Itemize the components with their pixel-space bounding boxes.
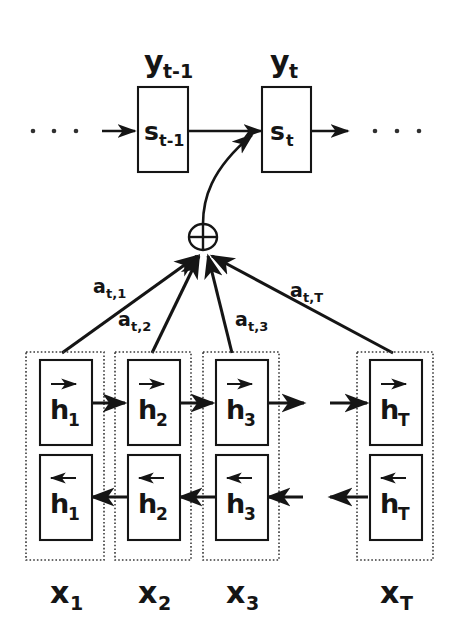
encoder-input-label-2: x 2 (138, 575, 171, 614)
xT-base: x (380, 575, 399, 610)
h1-forward-sub: 1 (68, 410, 80, 430)
context-to-state-curve (203, 135, 252, 224)
y-prev-base: y (144, 44, 164, 79)
s-cur-sub: t (286, 131, 294, 150)
encoder-cell-forward-2: h 2 (128, 360, 180, 445)
x3-base: x (226, 575, 245, 610)
encoder-cell-forward-1: h 1 (40, 360, 92, 445)
hT-backward-sub: T (398, 504, 410, 524)
hT-forward-sub: T (398, 410, 410, 430)
h2-backward-sub: 2 (156, 504, 168, 524)
h3-forward-sub: 3 (244, 410, 256, 430)
x3-sub: 3 (246, 592, 259, 614)
hT-forward-base: h (380, 394, 399, 425)
h2-backward-base: h (138, 488, 157, 519)
s-cur-base: s (270, 117, 285, 146)
encoder-cell-backward-1: h 1 (40, 455, 92, 540)
diagram-canvas: y t-1 s t-1 y t s t a (0, 0, 455, 631)
output-label-y-prev: y t-1 (144, 44, 193, 82)
attention-lines (62, 256, 393, 353)
y-cur-base: y (270, 44, 290, 79)
a1-base: a (93, 275, 106, 297)
hT-backward-base: h (380, 488, 399, 519)
encoder-cell-backward-3: h 3 (216, 455, 268, 540)
h1-forward-base: h (50, 394, 69, 425)
attention-architecture-diagram: y t-1 s t-1 y t s t a (0, 0, 455, 631)
x2-base: x (138, 575, 157, 610)
aT-sub: t,T (303, 290, 323, 305)
a3-sub: t,3 (248, 319, 268, 334)
a2-base: a (118, 308, 131, 330)
encoder-input-label-T: x T (380, 575, 413, 614)
encoder-input-label-3: x 3 (226, 575, 259, 614)
h2-forward-base: h (138, 394, 157, 425)
left-ellipsis (31, 129, 79, 134)
attention-weight-label-2: a t,2 (118, 308, 151, 334)
sum-node (189, 224, 217, 250)
output-label-y-cur: y t (270, 44, 298, 82)
x1-base: x (50, 575, 69, 610)
y-cur-sub: t (289, 60, 298, 82)
y-prev-sub: t-1 (163, 60, 193, 82)
attention-weight-label-3: a t,3 (235, 308, 268, 334)
right-ellipsis (373, 129, 422, 134)
encoder-cell-forward-T: h T (370, 360, 422, 445)
h3-backward-sub: 3 (244, 504, 256, 524)
h1-backward-sub: 1 (68, 504, 80, 524)
xT-sub: T (400, 592, 413, 614)
h2-forward-sub: 2 (156, 410, 168, 430)
aT-base: a (290, 279, 303, 301)
attention-weight-label-1: a t,1 (93, 275, 126, 301)
encoder-input-label-1: x 1 (50, 575, 83, 614)
x1-sub: 1 (70, 592, 83, 614)
h3-backward-base: h (226, 488, 245, 519)
encoder-cell-backward-T: h T (370, 455, 422, 540)
h1-backward-base: h (50, 488, 69, 519)
attention-line-3 (208, 256, 232, 353)
s-prev-sub: t-1 (159, 131, 184, 150)
a1-sub: t,1 (106, 286, 126, 301)
encoder-cell-forward-3: h 3 (216, 360, 268, 445)
s-prev-base: s (144, 117, 159, 146)
a2-sub: t,2 (131, 319, 151, 334)
encoder-cell-backward-2: h 2 (128, 455, 180, 540)
a3-base: a (235, 308, 248, 330)
x2-sub: 2 (158, 592, 171, 614)
h3-forward-base: h (226, 394, 245, 425)
